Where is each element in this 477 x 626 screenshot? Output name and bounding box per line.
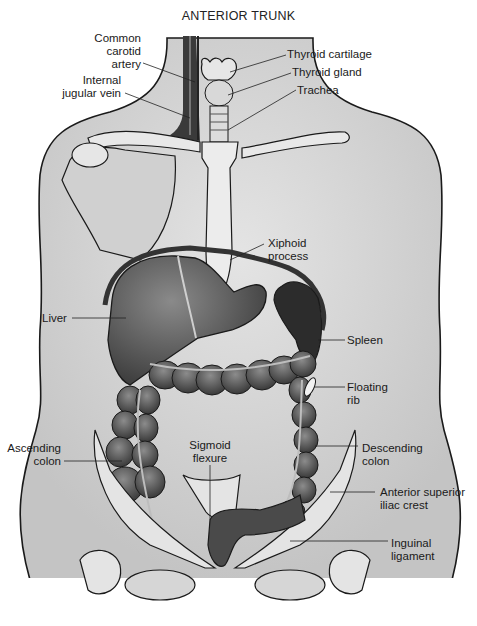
label-floating-rib: Floating rib	[347, 381, 388, 407]
label-xiphoid-process: Xiphoid process	[268, 237, 308, 263]
label-spleen: Spleen	[347, 334, 383, 347]
label-descending-colon: Descending colon	[362, 442, 423, 468]
label-inguinal-ligament: Inguinal ligament	[391, 537, 434, 563]
label-anterior-superior-iliac-crest: Anterior superior iliac crest	[380, 486, 465, 512]
figure-title: ANTERIOR TRUNK	[0, 9, 477, 23]
label-thyroid-gland: Thyroid gland	[292, 66, 362, 79]
label-liver: Liver	[42, 312, 67, 325]
label-sigmoid-flexure: Sigmoid flexure	[185, 439, 235, 465]
label-ascending-colon: Ascending colon	[7, 442, 61, 468]
label-thyroid-cartilage: Thyroid cartilage	[287, 48, 372, 61]
label-internal-jugular-vein: Internal jugular vein	[62, 74, 121, 100]
label-trachea: Trachea	[297, 84, 339, 97]
label-common-carotid-artery: Common carotid artery	[94, 32, 141, 71]
